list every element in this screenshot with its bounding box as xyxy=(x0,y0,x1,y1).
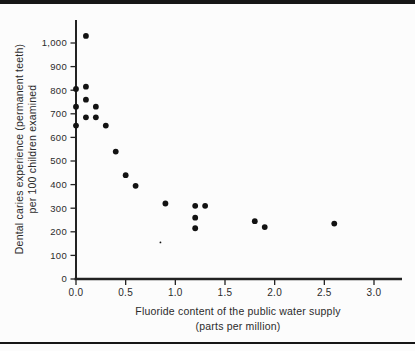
scanned-figure-page: 01002003004005006007008009001,0000.00.51… xyxy=(0,0,415,351)
x-tick-label: 1.5 xyxy=(218,287,233,298)
data-point xyxy=(93,104,99,110)
x-tick-label: 2.5 xyxy=(317,287,332,298)
x-axis-title: Fluoride content of the public water sup… xyxy=(135,304,340,334)
x-tick-label: 1.0 xyxy=(168,287,183,298)
y-tick-label: 300 xyxy=(50,203,67,214)
y-tick-label: 100 xyxy=(50,250,67,261)
x-tick-label: 3.0 xyxy=(367,287,382,298)
y-tick-label: 500 xyxy=(50,155,67,166)
y-tick-label: 600 xyxy=(50,132,67,143)
x-tick-label: 0.0 xyxy=(69,287,84,298)
data-point xyxy=(163,201,169,207)
data-point xyxy=(331,221,337,227)
y-tick-label: 900 xyxy=(50,61,67,72)
data-point xyxy=(103,123,109,129)
y-tick-label: 800 xyxy=(50,85,67,96)
data-point xyxy=(252,218,258,224)
y-axis-title: Dental caries experience (permanent teet… xyxy=(13,44,39,254)
data-point xyxy=(83,33,89,39)
y-tick-label: 1,000 xyxy=(42,37,67,48)
y-tick-label: 400 xyxy=(50,179,67,190)
data-point xyxy=(73,86,79,92)
y-tick-label: 0 xyxy=(61,273,67,284)
data-point xyxy=(73,123,79,129)
data-point xyxy=(192,203,198,209)
x-tick-label: 2.0 xyxy=(267,287,282,298)
bottom-rule xyxy=(0,342,415,344)
data-point xyxy=(192,215,198,221)
data-point xyxy=(123,172,129,178)
y-axis-title-line1: Dental caries experience (permanent teet… xyxy=(13,44,26,254)
data-point xyxy=(113,149,119,155)
artifact-dot xyxy=(160,242,162,244)
data-point xyxy=(192,225,198,231)
x-tick-label: 0.5 xyxy=(118,287,133,298)
data-point xyxy=(83,114,89,120)
x-axis-title-line1: Fluoride content of the public water sup… xyxy=(135,304,340,319)
data-point xyxy=(73,104,79,110)
data-point xyxy=(93,114,99,120)
data-point xyxy=(133,183,139,189)
x-axis-title-line2: (parts per million) xyxy=(135,319,340,334)
y-tick-label: 700 xyxy=(50,108,67,119)
y-tick-label: 200 xyxy=(50,226,67,237)
y-axis-title-line2: per 100 children examined xyxy=(26,44,39,254)
data-point xyxy=(262,224,268,230)
data-point xyxy=(83,97,89,103)
scatter-plot: 01002003004005006007008009001,0000.00.51… xyxy=(0,0,415,351)
data-point xyxy=(202,203,208,209)
data-point xyxy=(83,84,89,90)
